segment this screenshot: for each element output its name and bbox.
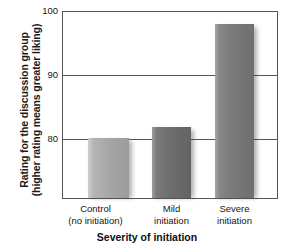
bar-control-body — [88, 138, 129, 198]
bar-control[interactable] — [88, 138, 129, 198]
x-axis-title: Severity of initiation — [0, 231, 294, 243]
y-tick-label-100: 100 — [32, 5, 58, 16]
bar-severe-body — [215, 24, 254, 198]
x-tick-label-severe-line-2: initiation — [187, 215, 282, 227]
y-axis-tick-labels: 100 90 80 — [30, 0, 58, 200]
y-tick-label-90: 90 — [32, 69, 58, 80]
bar-mild-body — [152, 127, 191, 198]
x-tick-label-severe-line-1: Severe — [187, 203, 282, 215]
plot-area — [62, 11, 278, 199]
bar-chart-figure: Rating for the discussion group (higher … — [0, 0, 294, 250]
bar-severe[interactable] — [215, 24, 254, 198]
bar-mild[interactable] — [152, 127, 191, 198]
y-tick-label-80: 80 — [32, 133, 58, 144]
y-axis-title-line-1: Rating for the discussion group — [18, 32, 31, 188]
x-tick-label-severe: Severe initiation — [187, 203, 282, 226]
